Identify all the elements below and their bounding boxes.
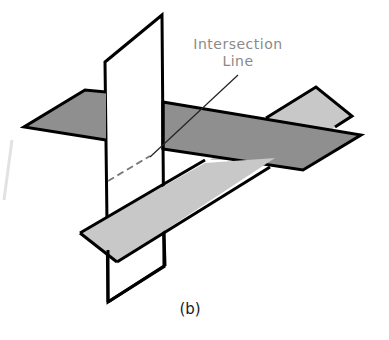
- scan-artifact: [4, 140, 12, 200]
- figure-caption: (b): [170, 300, 210, 318]
- annotation-label: Intersection Line: [178, 36, 298, 70]
- annotation-line1: Intersection: [178, 36, 298, 53]
- annotation-line2: Line: [178, 53, 298, 70]
